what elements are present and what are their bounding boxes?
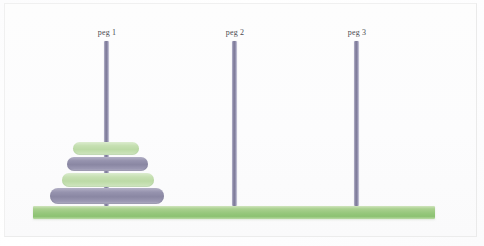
peg-1-label: peg 1 bbox=[98, 28, 117, 38]
peg-3-label: peg 3 bbox=[348, 28, 367, 38]
disk-1-smallest[interactable] bbox=[73, 142, 139, 155]
hanoi-board: peg 1 peg 2 peg 3 bbox=[0, 0, 484, 246]
peg-3[interactable] bbox=[354, 41, 359, 206]
peg-2-label: peg 2 bbox=[226, 28, 245, 38]
disk-2[interactable] bbox=[67, 157, 148, 171]
disk-4-largest[interactable] bbox=[50, 188, 164, 204]
disk-3[interactable] bbox=[62, 173, 154, 187]
peg-2[interactable] bbox=[232, 41, 237, 206]
base-bar bbox=[33, 206, 435, 219]
